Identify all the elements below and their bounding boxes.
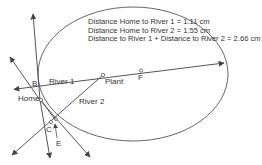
label-c: C <box>46 125 52 134</box>
label-f: F <box>138 73 143 82</box>
label-b: B <box>32 79 37 88</box>
f-point <box>139 69 142 72</box>
label-plant: Plant <box>105 77 124 86</box>
label-river-1: River 1 <box>49 77 75 86</box>
home-point <box>39 98 42 101</box>
c-point <box>49 120 52 123</box>
info-line-3: Distance to River 1 + Distance to River … <box>88 34 261 43</box>
label-e: E <box>56 139 61 148</box>
e-point <box>55 118 58 121</box>
e-pointer <box>55 124 57 138</box>
geometry-diagram: B River 1 Home Plant F River 2 C E Dista… <box>0 0 262 165</box>
label-river-2: River 2 <box>79 97 105 106</box>
label-home: Home <box>18 94 40 103</box>
